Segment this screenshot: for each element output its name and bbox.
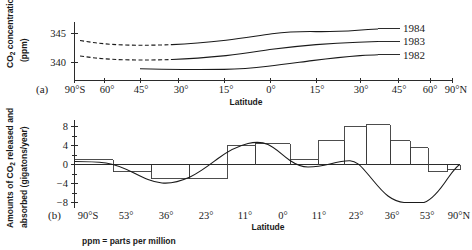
panel-a-ytick-label-340: 340 bbox=[50, 57, 66, 68]
series-1983-dashed bbox=[80, 56, 172, 60]
panel-a-xtick-labels: 90°S 60° 45° 30° 15° 0° 15° 30° 45° 60° … bbox=[65, 84, 468, 95]
table-row bbox=[151, 165, 189, 179]
table-row bbox=[410, 148, 428, 165]
panel-b-xtick-label-2: 36° bbox=[159, 210, 174, 221]
series-1984-dashed bbox=[80, 41, 172, 46]
panel-b-xtick-labels: 90°S 53° 36° 23° 11° 0° 11° 23° 36° 53° … bbox=[78, 210, 471, 221]
panel-b-ytick-label-neg8: −8 bbox=[57, 197, 68, 208]
figure-footnote: ppm = parts per million bbox=[82, 236, 176, 246]
table-row bbox=[344, 127, 366, 165]
panel-b-xtick-label-1: 53° bbox=[119, 210, 134, 221]
panel-b-xtick-label-6: 11° bbox=[312, 210, 326, 221]
table-row bbox=[113, 165, 151, 172]
series-label-1984: 1984 bbox=[403, 22, 426, 34]
table-row bbox=[428, 165, 447, 172]
panel-a-xtick-label-6: 15° bbox=[310, 84, 325, 95]
panel-b-xtick-label-4: 11° bbox=[238, 210, 252, 221]
table-row bbox=[290, 160, 318, 165]
series-1984-connector bbox=[378, 29, 400, 30]
panel-a-xtick-label-2: 45° bbox=[134, 84, 149, 95]
panel-a-xtick-label-5: 0° bbox=[266, 84, 275, 95]
panel-a-xtick-label-3: 30° bbox=[174, 84, 189, 95]
series-label-1983: 1983 bbox=[403, 35, 426, 47]
panel-a-xtick-label-10: 90°N bbox=[445, 84, 468, 95]
panel-a-xtick-label-0: 90°S bbox=[65, 84, 86, 95]
panel-b-tag: (b) bbox=[48, 209, 61, 222]
panel-b-trend-curve bbox=[75, 142, 461, 202]
panel-a-ylabel-line2: (ppm) bbox=[19, 38, 29, 62]
panel-a-ylabel-line1: CO2 concentration bbox=[5, 0, 16, 68]
panel-b-ytick-label-neg4: −4 bbox=[57, 178, 69, 189]
panel-b-xtick-label-9: 53° bbox=[420, 210, 435, 221]
panel-a-group: CO2 concentration (ppm) 345 340 bbox=[5, 0, 468, 107]
panel-b-ytick-label-8: 8 bbox=[63, 121, 68, 132]
panel-a-xaxis-title: Latitude bbox=[229, 97, 262, 107]
panel-b-xtick-label-5: 0° bbox=[278, 210, 287, 221]
panel-a-xtick-label-9: 60° bbox=[423, 84, 438, 95]
panel-b-xaxis-title: Latitude bbox=[251, 222, 284, 232]
table-row bbox=[390, 141, 410, 165]
panel-b-group: Amounts of CO2 released and absorbed (gi… bbox=[5, 108, 471, 246]
panel-b-xtick-label-3: 23° bbox=[199, 210, 214, 221]
series-1982-line bbox=[140, 55, 378, 70]
panel-a-ytick-label-345: 345 bbox=[50, 28, 66, 39]
co2-latitude-figure: CO2 concentration (ppm) 345 340 bbox=[0, 0, 472, 250]
table-row bbox=[189, 165, 227, 179]
panel-a-xtick-label-4: 15° bbox=[219, 84, 234, 95]
panel-a-xtick-label-7: 30° bbox=[354, 84, 369, 95]
panel-b-xtick-label-10: 90°N bbox=[448, 210, 471, 221]
panel-a-xtick-label-1: 60° bbox=[100, 84, 115, 95]
panel-b-xtick-label-0: 90°S bbox=[78, 210, 99, 221]
table-row bbox=[366, 125, 390, 165]
panel-b-ytick-label-4: 4 bbox=[63, 140, 69, 151]
panel-b-ylabel-line1: Amounts of CO2 released and bbox=[5, 108, 16, 228]
table-row bbox=[227, 146, 255, 165]
panel-b-ylabel-line2: absorbed (gigatons/year) bbox=[19, 126, 29, 228]
table-row bbox=[318, 141, 344, 165]
panel-b-bars bbox=[75, 125, 461, 179]
panel-b-xtick-label-7: 23° bbox=[349, 210, 364, 221]
panel-b-xtick-label-8: 36° bbox=[385, 210, 400, 221]
panel-b-ytick-label-0: 0 bbox=[63, 159, 68, 170]
series-label-1982: 1982 bbox=[403, 49, 425, 61]
panel-a-xtick-label-8: 45° bbox=[392, 84, 407, 95]
panel-a-tag: (a) bbox=[36, 83, 49, 96]
